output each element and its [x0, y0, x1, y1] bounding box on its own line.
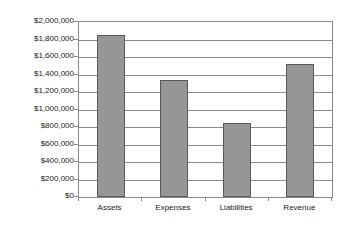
x-axis-labels: AssetsExpensesLiabilitiesRevenue	[78, 203, 331, 219]
y-axis-tick-label: $1,000,000	[2, 105, 74, 113]
y-axis-labels: $2,000,000$1,800,000$1,600,000$1,400,000…	[0, 0, 74, 229]
y-axis-tick-label: $1,200,000	[2, 87, 74, 95]
x-axis-tick-mark	[141, 197, 142, 201]
x-axis-category-label: Revenue	[268, 203, 331, 213]
y-axis-tick-label: $400,000	[2, 157, 74, 165]
y-axis-tick-label: $0	[2, 192, 74, 200]
x-axis-category-label: Assets	[78, 203, 141, 213]
plot-area	[78, 21, 333, 198]
y-axis-tick-label: $1,400,000	[2, 70, 74, 78]
bar	[223, 123, 251, 197]
x-axis-tick-mark	[331, 197, 332, 201]
y-axis-tick-label: $600,000	[2, 140, 74, 148]
x-axis-tick-mark	[205, 197, 206, 201]
y-axis-tick-label: $1,600,000	[2, 52, 74, 60]
bar	[160, 80, 188, 197]
x-axis-tick-mark	[78, 197, 79, 201]
bar	[97, 35, 125, 197]
x-axis-category-label: Expenses	[141, 203, 204, 213]
y-axis-tick-label: $1,800,000	[2, 35, 74, 43]
bar-chart: $2,000,000$1,800,000$1,600,000$1,400,000…	[0, 0, 348, 229]
y-axis-tick-label: $2,000,000	[2, 17, 74, 25]
x-axis-category-label: Liabilities	[205, 203, 268, 213]
bar	[286, 64, 314, 197]
y-axis-tick-label: $200,000	[2, 175, 74, 183]
y-axis-tick-label: $800,000	[2, 122, 74, 130]
x-axis-tick-mark	[268, 197, 269, 201]
